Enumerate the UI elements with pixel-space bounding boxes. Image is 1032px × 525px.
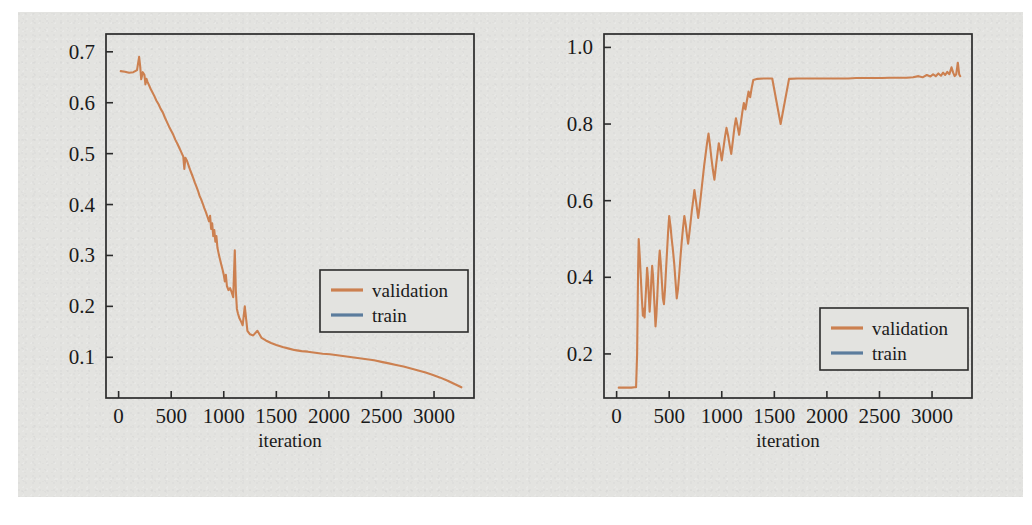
x-tick-label: 3000 bbox=[911, 404, 953, 428]
x-tick-label: 3000 bbox=[413, 404, 455, 428]
legend-label-validation[interactable]: validation bbox=[372, 280, 448, 301]
y-tick-label: 0.6 bbox=[567, 189, 593, 213]
y-tick-label: 0.6 bbox=[69, 91, 95, 115]
x-tick-label: 500 bbox=[155, 404, 187, 428]
y-tick-label: 1.0 bbox=[567, 35, 593, 59]
y-tick-label: 0.3 bbox=[69, 243, 95, 267]
plot-frame bbox=[106, 34, 474, 398]
y-tick-label: 0.8 bbox=[567, 112, 593, 136]
legend-label-validation[interactable]: validation bbox=[872, 318, 948, 339]
y-tick-label: 0.4 bbox=[69, 193, 96, 217]
y-tick-label: 0.2 bbox=[567, 342, 593, 366]
y-axis-label: loss bbox=[558, 201, 561, 231]
x-tick-label: 1500 bbox=[753, 404, 795, 428]
x-tick-label: 500 bbox=[653, 404, 685, 428]
x-axis-label: iteration bbox=[258, 430, 322, 451]
chart-panel-right: 0.20.40.60.81.0050010001500200025003000i… bbox=[558, 0, 1032, 485]
y-axis-label: loss bbox=[60, 201, 63, 231]
scanned-page: 0.10.20.30.40.50.60.70500100015002000250… bbox=[0, 0, 1032, 525]
x-tick-label: 0 bbox=[611, 404, 622, 428]
y-tick-label: 0.2 bbox=[69, 294, 95, 318]
y-tick-label: 0.7 bbox=[69, 40, 95, 64]
chart-panel-left: 0.10.20.30.40.50.60.70500100015002000250… bbox=[60, 0, 560, 485]
y-tick-label: 0.4 bbox=[567, 265, 594, 289]
y-tick-label: 0.1 bbox=[69, 345, 95, 369]
x-tick-label: 1000 bbox=[203, 404, 245, 428]
x-tick-label: 2000 bbox=[806, 404, 848, 428]
x-tick-label: 2000 bbox=[308, 404, 350, 428]
x-tick-label: 2500 bbox=[360, 404, 402, 428]
series-line-validation bbox=[121, 57, 462, 387]
x-tick-label: 2500 bbox=[858, 404, 900, 428]
x-tick-label: 1500 bbox=[255, 404, 297, 428]
chart-svg-right: 0.20.40.60.81.0050010001500200025003000i… bbox=[558, 0, 1032, 485]
x-tick-label: 1000 bbox=[701, 404, 743, 428]
x-axis-label: iteration bbox=[756, 430, 820, 451]
legend-label-train[interactable]: train bbox=[872, 343, 907, 364]
y-tick-label: 0.5 bbox=[69, 142, 95, 166]
chart-svg-left: 0.10.20.30.40.50.60.70500100015002000250… bbox=[60, 0, 560, 485]
x-tick-label: 0 bbox=[113, 404, 124, 428]
legend-label-train[interactable]: train bbox=[372, 305, 407, 326]
